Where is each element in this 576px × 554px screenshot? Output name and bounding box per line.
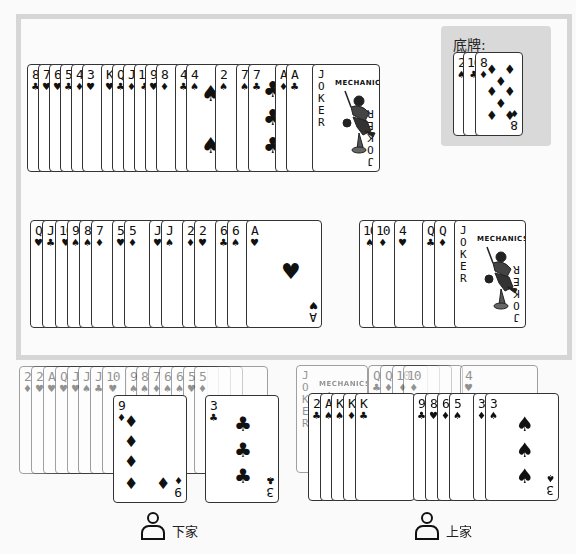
card-rank: K — [336, 397, 343, 410]
card-suit-icon: ♣ — [290, 82, 299, 92]
playing-card: K♣ — [355, 393, 415, 501]
card-rank: 10 — [106, 370, 120, 383]
card-corner: 2♠ — [219, 68, 228, 92]
card-rank: Q — [385, 369, 392, 382]
card-corner-bottom: 3♠ — [546, 473, 555, 497]
card-rank: 4 — [465, 369, 472, 382]
card-rank: Q — [427, 224, 434, 237]
card-suit-icon: ♠ — [190, 82, 199, 92]
suit-pip-icon: ♣ — [234, 440, 252, 460]
card-rank: 2 — [24, 370, 31, 383]
card-rank: 10 — [407, 369, 421, 382]
card-rank: Q — [439, 224, 446, 237]
card-rank: 6 — [176, 370, 183, 383]
card-suit-icon: ♥ — [86, 82, 95, 92]
card-corner-bottom: 3♣ — [266, 475, 275, 499]
suit-pip-icon: ♦ — [124, 454, 138, 470]
card-suit-icon: ♦ — [438, 238, 447, 248]
card-rank: 2 — [313, 397, 320, 410]
card-rank: 6 — [220, 224, 227, 237]
suit-pip-icon: ♠ — [516, 414, 534, 434]
card-rank: 3 — [490, 397, 497, 410]
card-suit-icon: ♣ — [46, 238, 55, 248]
card-rank: K — [348, 397, 355, 410]
card-suit-icon: ♦ — [378, 238, 387, 248]
playing-card: 3♣3♣♣♣♣ — [205, 395, 279, 503]
joker-illustration-icon: MECHANICS — [335, 79, 380, 161]
card-corner: A♣ — [290, 68, 299, 92]
card-rank: 5 — [454, 397, 461, 410]
playing-card: 8♦8♦♦♦♦♦♦♦♦♦ — [475, 52, 523, 136]
card-rank: 5 — [129, 224, 136, 237]
card-corner-bottom: 9♦ — [174, 475, 183, 499]
playing-card: 3♠3♠♠♠♠ — [485, 393, 559, 501]
playing-card: 9♦9♦♦♦♦♦♦ — [113, 395, 187, 503]
card-suit-icon: ♥ — [398, 238, 407, 248]
suit-pip-icon: ♣ — [234, 414, 252, 434]
card-rank: Q — [60, 370, 67, 383]
card-rank: 6 — [232, 224, 239, 237]
suit-pip-icon: ♦ — [486, 109, 498, 122]
card-suit-icon: ♦ — [409, 383, 418, 393]
card-rank: 8 — [84, 224, 91, 237]
card-corner: 4♥ — [464, 369, 473, 393]
card-corner: 5♠ — [453, 397, 462, 421]
card-corner: 7♦ — [95, 224, 104, 248]
suit-pip-icon: ♦ — [124, 434, 138, 450]
card-corner: A♥ — [250, 224, 259, 248]
card-suit-icon: ♣ — [252, 82, 261, 92]
card-corner: 3♥ — [86, 68, 95, 92]
card-rank: K — [360, 397, 367, 410]
card-corner-bottom: A♥ — [309, 300, 318, 324]
card-suit-icon: ♥ — [464, 383, 473, 393]
card-rank: A — [291, 68, 298, 81]
card-corner: J♠ — [165, 224, 174, 248]
card-corner: 7♣ — [252, 68, 261, 92]
card-rank: J — [166, 224, 173, 237]
joker-brand: MECHANICS — [335, 79, 380, 87]
card-suit-icon: ♦ — [128, 238, 137, 248]
player-prev-label: 上家 — [446, 521, 472, 540]
suit-pip-icon: ♠ — [516, 466, 534, 486]
card-rank: 7 — [96, 224, 103, 237]
card-rank: 4 — [191, 68, 198, 81]
card-corner: 3♣ — [209, 399, 218, 423]
card-corner: 3♠ — [489, 397, 498, 421]
player-next-label: 下家 — [172, 521, 198, 540]
card-corner: Q♦ — [438, 224, 447, 248]
card-corner: 2♥ — [198, 224, 207, 248]
bottom-cards-title: 底牌: — [453, 34, 486, 54]
playing-card: JOKERJOKERMECHANICS — [454, 220, 526, 328]
card-rank: 6 — [164, 370, 171, 383]
joker-label-top: JOKER — [460, 225, 467, 285]
card-corner: 10♦ — [376, 224, 390, 248]
person-icon — [414, 512, 440, 540]
card-suit-icon: ♣ — [359, 411, 368, 421]
card-rank: J — [95, 370, 102, 383]
card-rank: A — [48, 370, 55, 383]
card-suit-icon: ♦ — [198, 384, 207, 394]
card-rank: 3 — [87, 68, 94, 81]
card-suit-icon: ♦ — [160, 82, 169, 92]
card-corner: 6♠ — [231, 224, 240, 248]
card-rank: 7 — [253, 68, 260, 81]
card-corner: 4♠ — [190, 68, 199, 92]
card-suit-icon: ♠ — [453, 411, 462, 421]
card-corner: 4♥ — [398, 224, 407, 248]
card-suit-icon: ♠ — [231, 238, 240, 248]
card-corner: K♣ — [359, 397, 368, 421]
card-rank: 9 — [418, 397, 425, 410]
card-rank: 5 — [117, 224, 124, 237]
suit-pip-icon: ♦ — [124, 476, 138, 492]
player-next: 下家 — [140, 512, 198, 540]
card-corner: 5♦ — [198, 370, 207, 394]
card-corner: 5♦ — [128, 224, 137, 248]
suit-pip-icon: ♦ — [156, 476, 170, 492]
card-corner: 8♦ — [160, 68, 169, 92]
card-suit-icon: ♥ — [250, 238, 259, 248]
card-rank: 6 — [442, 397, 449, 410]
joker-brand: MECHANICS — [319, 380, 368, 388]
card-corner: 10♦ — [407, 369, 421, 393]
card-rank: J — [47, 224, 54, 237]
card-rank: J — [154, 224, 161, 237]
